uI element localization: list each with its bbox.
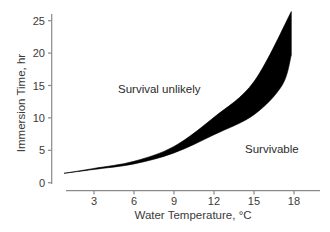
y-tick-label: 5: [39, 144, 45, 156]
x-axis: 369121518: [66, 191, 320, 207]
x-tick-label: 15: [248, 195, 260, 207]
annotation-survival-unlikely: Survival unlikely: [118, 83, 201, 95]
x-tick-label: 18: [288, 195, 300, 207]
x-tick-label: 9: [171, 195, 177, 207]
survival-chart: 0510152025 369121518 Survival unlikely S…: [0, 0, 330, 232]
y-tick-label: 0: [39, 177, 45, 189]
x-axis-title: Water Temperature, °C: [134, 209, 251, 221]
y-tick-label: 25: [33, 15, 45, 27]
x-tick-label: 3: [91, 195, 97, 207]
y-axis-title: Immersion Time, hr: [15, 54, 27, 153]
x-tick-label: 6: [131, 195, 137, 207]
y-tick-label: 10: [33, 112, 45, 124]
y-axis: 0510152025: [33, 14, 52, 189]
y-tick-label: 20: [33, 47, 45, 59]
y-ticks: 0510152025: [33, 15, 52, 189]
x-ticks: 369121518: [91, 191, 300, 207]
y-tick-label: 15: [33, 80, 45, 92]
annotation-survivable: Survivable: [245, 143, 299, 155]
x-tick-label: 12: [208, 195, 220, 207]
